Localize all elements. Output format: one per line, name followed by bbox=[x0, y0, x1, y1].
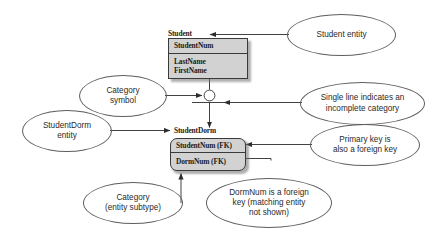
callout-studentdorm-entity-text: StudentDorm entity bbox=[39, 121, 95, 141]
callout-dormnum-foreign-key-text: DormNum is a foreign key (matching entit… bbox=[225, 188, 313, 219]
callout-primary-foreign-key[interactable]: Primary key is also a foreign key bbox=[310, 124, 420, 166]
erd-diagram-canvas: StudentNum LastName FirstName Student St… bbox=[0, 0, 440, 242]
entity-studentdorm-key-compartment: StudentNum (FK) bbox=[171, 139, 245, 153]
entity-student-title: Student bbox=[168, 29, 192, 38]
category-circle-symbol bbox=[204, 90, 215, 101]
callout-category-symbol[interactable]: Category symbol bbox=[79, 75, 167, 117]
callout-category-subtype-text: Category (entity subtype) bbox=[101, 193, 165, 213]
entity-studentdorm-fk-compartment: DormNum (FK) bbox=[171, 153, 245, 170]
entity-student-key-compartment: StudentNum bbox=[169, 39, 247, 54]
callout-category-subtype[interactable]: Category (entity subtype) bbox=[83, 182, 183, 224]
callout-studentdorm-entity[interactable]: StudentDorm entity bbox=[22, 110, 112, 152]
callout-student-entity[interactable]: Student entity bbox=[287, 14, 396, 56]
callout-incomplete-category-text: Single line indicates an incomplete cate… bbox=[317, 93, 409, 113]
callout-incomplete-category[interactable]: Single line indicates an incomplete cate… bbox=[300, 82, 425, 125]
callout-student-entity-text: Student entity bbox=[312, 30, 370, 40]
entity-student[interactable]: StudentNum LastName FirstName bbox=[168, 38, 248, 79]
entity-studentdorm[interactable]: StudentNum (FK) DormNum (FK) bbox=[170, 138, 246, 171]
attribute-studentnum-fk: StudentNum (FK) bbox=[176, 141, 245, 150]
entity-student-attrs-compartment: LastName FirstName bbox=[169, 54, 247, 78]
entity-studentdorm-title: StudentDorm bbox=[174, 126, 216, 135]
attribute-studentnum: StudentNum bbox=[174, 41, 247, 50]
callout-dormnum-foreign-key[interactable]: DormNum is a foreign key (matching entit… bbox=[206, 178, 332, 228]
attribute-firstname: FirstName bbox=[174, 66, 247, 75]
attribute-lastname: LastName bbox=[174, 57, 247, 66]
attribute-dormnum-fk: DormNum (FK) bbox=[176, 157, 245, 166]
callout-category-symbol-text: Category symbol bbox=[102, 86, 143, 106]
callout-primary-foreign-key-text: Primary key is also a foreign key bbox=[329, 135, 401, 155]
